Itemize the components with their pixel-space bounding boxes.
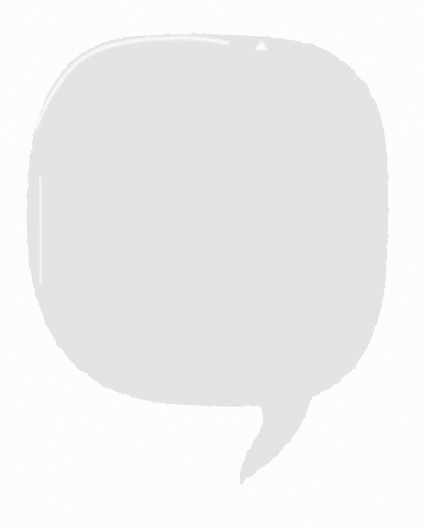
bubble-body — [27, 34, 388, 407]
speech-bubble-graphic — [0, 0, 424, 528]
left-edge-slit — [40, 176, 41, 284]
canvas-root — [0, 0, 424, 528]
bubble-shape-group — [27, 34, 388, 484]
